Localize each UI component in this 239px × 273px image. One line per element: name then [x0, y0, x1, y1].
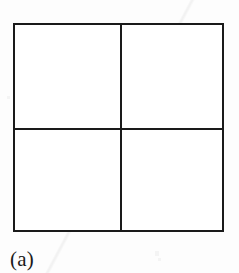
scan-speck [158, 258, 161, 261]
quadrant-bottom-left[interactable] [15, 130, 120, 233]
scan-speck [7, 96, 10, 99]
figure-panel: (a) [0, 0, 239, 273]
square-outline [13, 23, 224, 232]
horizontal-divider-line [15, 128, 222, 130]
quadrant-top-left[interactable] [15, 25, 120, 128]
quadrant-top-right[interactable] [122, 25, 227, 128]
quadrant-bottom-right[interactable] [122, 130, 227, 233]
scan-speck [155, 251, 159, 256]
figure-caption: (a) [10, 247, 34, 271]
